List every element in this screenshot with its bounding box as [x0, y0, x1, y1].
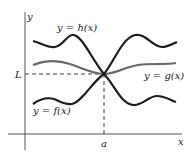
squeeze-theorem-diagram: y x L a y = h(x) y = g(x) y = f(x): [0, 0, 188, 160]
a-label: a: [101, 138, 107, 149]
curve-f-label: y = f(x): [32, 105, 71, 116]
y-axis-label: y: [26, 11, 33, 22]
x-axis-label: x: [178, 136, 184, 147]
limit-label: L: [14, 69, 22, 80]
curve-g-label: y = g(x): [143, 70, 184, 81]
curve-h: [33, 35, 177, 74]
diagram-canvas: y x L a y = h(x) y = g(x) y = f(x): [0, 0, 188, 160]
curve-h-label: y = h(x): [56, 22, 97, 33]
